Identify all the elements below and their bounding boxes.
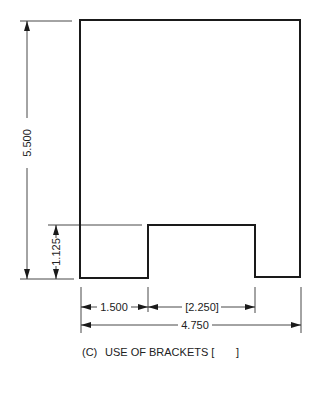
dim-notch-width: [2.250] <box>185 301 219 313</box>
caption-label: (C) <box>82 346 97 358</box>
caption-text: USE OF BRACKETS [ <box>105 346 214 358</box>
dim-overall-height: 5.500 <box>21 129 33 157</box>
caption-close-bracket: ] <box>236 346 239 358</box>
dim-notch-height: 1.125 <box>50 238 62 266</box>
dim-overall-width: 4.750 <box>181 319 209 331</box>
dim-left-width: 1.500 <box>100 301 128 313</box>
technical-drawing: 5.500 1.125 1.500 [2.250] 4.750 (C) USE … <box>0 0 316 394</box>
part-outline <box>80 20 300 278</box>
